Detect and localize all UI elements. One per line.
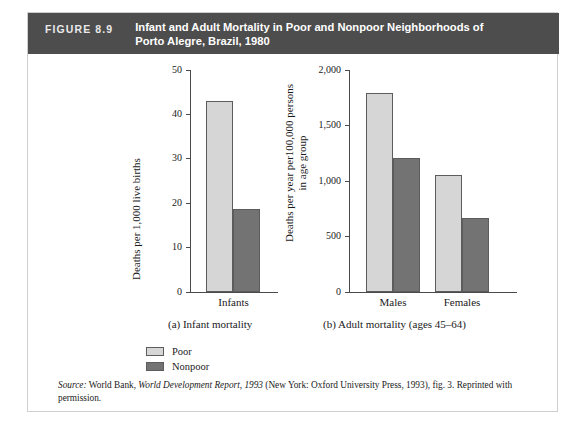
figure-number-label: FIGURE 8.9 (45, 23, 113, 35)
tick-adult-0 (345, 292, 350, 293)
tick-infant-0 (186, 292, 191, 293)
ytick-label-adult-500: 500 (301, 230, 341, 241)
x-axis-line-adult (349, 292, 517, 293)
ytick-label-adult-0: 0 (301, 286, 341, 297)
y-axis-title-infant: Deaths per 1,000 live births (130, 158, 142, 280)
tick-infant-50 (186, 70, 191, 71)
ytick-label-adult-2000: 2,000 (301, 64, 341, 75)
legend-label-nonpoor: Nonpoor (172, 361, 209, 372)
figure-title: Infant and Adult Mortality in Poor and N… (135, 21, 515, 48)
ytick-label-infant-30: 30 (148, 152, 182, 163)
tick-adult-500 (345, 236, 350, 237)
source-note: Source: World Bank, World Development Re… (58, 379, 528, 404)
chart-legend: Poor Nonpoor (146, 345, 209, 375)
tick-adult-1000 (345, 181, 350, 182)
tick-infant-30 (186, 158, 191, 159)
y-axis-title-adult-line1: Deaths per year per100,000 persons (283, 68, 296, 258)
legend-item-poor: Poor (146, 345, 209, 357)
panel-caption-a: (a) Infant mortality (168, 318, 252, 330)
tick-adult-1500 (345, 125, 350, 126)
tick-infant-20 (186, 203, 191, 204)
tick-infant-40 (186, 114, 191, 115)
chart-adult-mortality: Deaths per year per100,000 persons in ag… (283, 62, 523, 344)
ytick-label-adult-1000: 1,000 (301, 175, 341, 186)
figure-container: FIGURE 8.9 Infant and Adult Mortality in… (27, 12, 558, 412)
xtick-label-infants: Infants (191, 296, 276, 308)
xtick-label-females: Females (422, 296, 502, 308)
bar-infants-poor (206, 101, 233, 292)
bar-males-poor (366, 93, 393, 292)
charts-area: Deaths per 1,000 live births 0 10 20 30 … (28, 54, 559, 344)
bar-infants-nonpoor (233, 209, 260, 292)
legend-label-poor: Poor (172, 346, 192, 357)
bar-females-poor (435, 175, 462, 292)
ytick-label-infant-50: 50 (148, 64, 182, 75)
source-report-title: World Development Report, 1993 (138, 380, 263, 390)
legend-swatch-nonpoor-icon (146, 362, 164, 371)
ytick-label-infant-20: 20 (148, 197, 182, 208)
xtick-label-males: Males (353, 296, 433, 308)
figure-header-band: FIGURE 8.9 Infant and Adult Mortality in… (28, 13, 559, 54)
y-axis-line-infant (190, 70, 191, 292)
x-axis-line-infant (190, 292, 278, 293)
ytick-label-infant-0: 0 (148, 286, 182, 297)
bar-males-nonpoor (393, 158, 420, 292)
legend-swatch-poor-icon (146, 347, 164, 356)
tick-infant-10 (186, 247, 191, 248)
ytick-label-infant-40: 40 (148, 108, 182, 119)
bar-females-nonpoor (462, 218, 489, 292)
chart-infant-mortality: Deaths per 1,000 live births 0 10 20 30 … (128, 62, 278, 344)
legend-item-nonpoor: Nonpoor (146, 360, 209, 372)
panel-caption-b: (b) Adult mortality (ages 45–64) (323, 318, 466, 330)
ytick-label-adult-1500: 1,500 (301, 119, 341, 130)
tick-adult-2000 (345, 70, 350, 71)
source-text-1: World Bank, (87, 380, 139, 390)
source-lead: Source: (58, 380, 87, 390)
ytick-label-infant-10: 10 (148, 241, 182, 252)
